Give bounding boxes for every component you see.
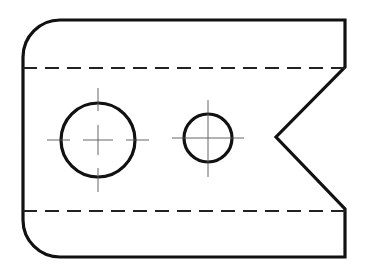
technical-drawing: Plate with two holes and V-notch [0,0,366,274]
